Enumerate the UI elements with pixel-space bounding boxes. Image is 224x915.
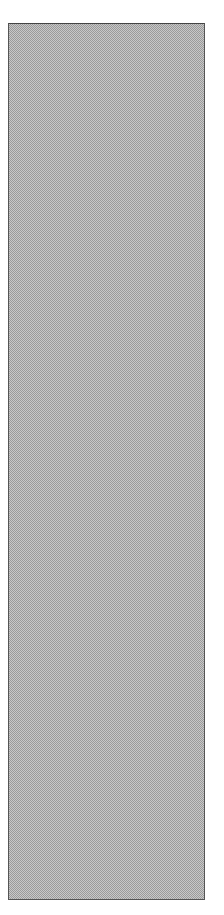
dithered-gray-panel xyxy=(8,23,205,900)
